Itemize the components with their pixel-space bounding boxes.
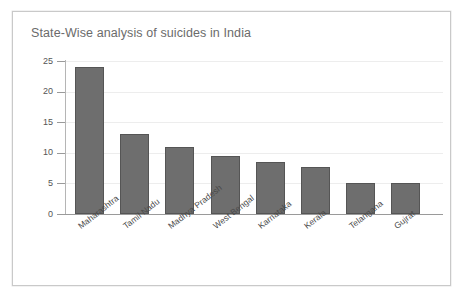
y-tick-mark bbox=[57, 153, 65, 154]
gridline bbox=[66, 61, 443, 62]
y-tick-mark bbox=[57, 92, 65, 93]
gridline bbox=[66, 122, 443, 123]
y-tick-label: 10 bbox=[25, 148, 53, 157]
y-tick-label: 20 bbox=[25, 87, 53, 96]
bar[interactable] bbox=[120, 134, 149, 214]
y-tick-label: 5 bbox=[25, 179, 53, 188]
bar[interactable] bbox=[75, 67, 104, 214]
bar[interactable] bbox=[301, 167, 330, 214]
y-tick-mark bbox=[57, 122, 65, 123]
y-tick-label: 0 bbox=[25, 210, 53, 219]
plot-area: 0510152025 MaharashtraTamil NaduMadhya P… bbox=[13, 12, 452, 287]
y-tick-label: 15 bbox=[25, 118, 53, 127]
gridline bbox=[66, 92, 443, 93]
y-tick-mark bbox=[57, 214, 65, 215]
gridline bbox=[57, 214, 443, 215]
y-axis-line bbox=[65, 60, 66, 215]
y-tick-label: 25 bbox=[25, 57, 53, 66]
chart-card: State-Wise analysis of suicides in India… bbox=[12, 11, 451, 286]
y-tick-mark bbox=[57, 61, 65, 62]
y-tick-mark bbox=[57, 183, 65, 184]
bar[interactable] bbox=[391, 183, 420, 214]
